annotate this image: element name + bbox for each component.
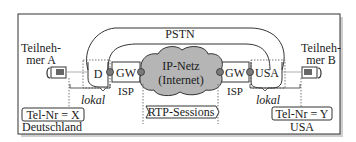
voip-diagram: PSTN D GW ISP GW ISP USA IP-Netz (Intern… — [0, 0, 356, 142]
node-gw-cloud-left — [138, 69, 145, 76]
participant-a-line2: mer A — [26, 53, 56, 67]
isp-left-label: ISP — [118, 85, 134, 97]
participant-b-line2: mer B — [306, 53, 336, 67]
node-gw-cloud-right — [217, 69, 224, 76]
node-gw-usa — [247, 69, 254, 76]
country-a: Deutschland — [22, 120, 82, 134]
internet-label-line2: (Internet) — [158, 73, 203, 87]
country-b: USA — [290, 120, 314, 134]
isp-right-label: ISP — [227, 85, 243, 97]
rtp-sessions-label: RTP-Sessions — [148, 105, 215, 119]
local-left-label: lokal — [81, 93, 106, 107]
phone-number-b: Tel-Nr = Y — [276, 107, 329, 121]
exchange-d-label: D — [94, 67, 103, 81]
pstn-label: PSTN — [165, 27, 195, 41]
gateway-left-label: GW — [116, 66, 137, 80]
node-d-gw — [107, 69, 114, 76]
local-right-label: lokal — [256, 93, 281, 107]
exchange-usa-label: USA — [255, 66, 279, 80]
internet-label-line1: IP-Netz — [162, 59, 199, 73]
gateway-right-label: GW — [225, 66, 246, 80]
